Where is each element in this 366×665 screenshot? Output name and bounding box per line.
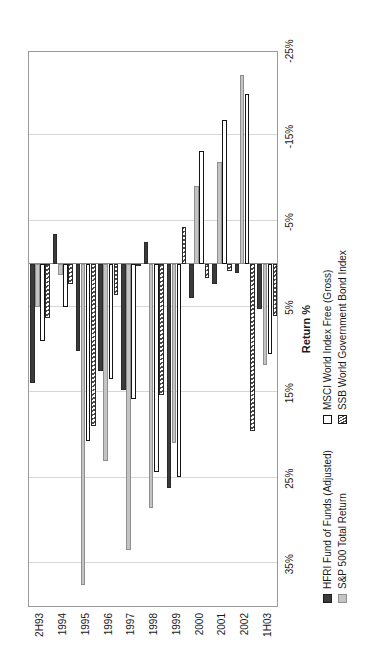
legend-swatch-spx-icon (338, 594, 347, 603)
bar-ssb-1997 (136, 264, 141, 266)
bar-group (98, 52, 118, 606)
legend-label: SSB World Government Bond Index (337, 250, 348, 410)
return-comparison-bar-chart: 35%25%15%5%-5%-15%-25% 2H931994199519961… (0, 0, 366, 665)
category-label-1999: 1999 (170, 613, 181, 663)
bar-spx-1994 (58, 264, 63, 275)
chart-legend: HFRI Fund of Funds (Adjusted)S&P 500 Tot… (322, 250, 348, 603)
bar-spx-2000 (194, 186, 199, 264)
category-label-1997: 1997 (125, 613, 136, 663)
bar-hfri-2000 (189, 264, 194, 298)
category-label-1995: 1995 (79, 613, 90, 663)
bar-ssb-1995 (91, 264, 96, 427)
bar-hfri-2002 (235, 264, 240, 273)
legend-entry-ssb: SSB World Government Bond Index (337, 250, 348, 424)
legend-label: MSCI World Index Free (Gross) (322, 270, 333, 410)
bar-spx-1999 (172, 264, 177, 444)
bar-msci-1995 (86, 264, 91, 441)
bar-ssb-1996 (114, 264, 119, 295)
category-label-1H03: 1H03 (261, 613, 272, 663)
category-label-2002: 2002 (238, 613, 249, 663)
bar-group (212, 52, 232, 606)
category-label-1996: 1996 (102, 613, 113, 663)
bar-spx-2001 (217, 162, 222, 264)
legend-label: HFRI Fund of Funds (Adjusted) (322, 450, 333, 589)
bar-msci-1996 (109, 264, 114, 379)
bar-group (167, 52, 187, 606)
bar-ssb-2001 (227, 264, 232, 271)
bar-spx-1995 (81, 264, 86, 586)
bar-msci-2H93 (40, 264, 45, 341)
bar-msci-1999 (177, 264, 182, 477)
bar-group (257, 52, 277, 606)
value-axis-title: Return % (300, 51, 312, 607)
legend-entry-hfri: HFRI Fund of Funds (Adjusted) (322, 450, 333, 603)
bar-spx-1H03 (263, 264, 268, 365)
bar-hfri-1998 (144, 242, 149, 264)
bar-group (121, 52, 141, 606)
category-label-1998: 1998 (148, 613, 159, 663)
bar-group (144, 52, 164, 606)
legend-column: HFRI Fund of Funds (Adjusted)S&P 500 Tot… (322, 450, 348, 603)
bar-hfri-1999 (167, 264, 172, 488)
bar-msci-1H03 (268, 264, 273, 354)
legend-label: S&P 500 Total Return (337, 493, 348, 589)
legend-swatch-msci-icon (323, 415, 332, 424)
bar-hfri-1H03 (257, 264, 262, 309)
bar-ssb-2002 (250, 264, 255, 431)
legend-entry-msci: MSCI World Index Free (Gross) (322, 250, 333, 424)
bar-hfri-1997 (121, 264, 126, 391)
bar-msci-1997 (131, 264, 136, 399)
bar-hfri-2001 (212, 264, 217, 285)
tick-label: -5% (284, 213, 295, 231)
category-label-2H93: 2H93 (34, 613, 45, 663)
bar-hfri-1995 (76, 264, 81, 351)
bar-msci-2002 (245, 94, 250, 264)
legend-entry-spx: S&P 500 Total Return (337, 450, 348, 603)
bar-ssb-1998 (159, 264, 164, 395)
bar-hfri-1994 (53, 234, 58, 264)
bar-msci-1994 (63, 264, 68, 308)
bar-spx-1998 (149, 264, 154, 509)
legend-column: MSCI World Index Free (Gross)SSB World G… (322, 250, 348, 424)
bar-ssb-1H03 (273, 264, 278, 316)
bar-ssb-2000 (205, 264, 210, 278)
bar-group (76, 52, 96, 606)
bar-spx-1996 (103, 264, 108, 461)
bar-spx-2002 (240, 75, 245, 264)
bar-spx-1997 (126, 264, 131, 550)
category-label-1994: 1994 (57, 613, 68, 663)
bar-group (30, 52, 50, 606)
tick-label: 15% (284, 383, 295, 403)
bar-msci-2001 (222, 120, 227, 264)
category-label-2000: 2000 (193, 613, 204, 663)
bar-spx-2H93 (35, 264, 40, 307)
tick-label: -25% (284, 39, 295, 62)
tick-label: -15% (284, 125, 295, 148)
tick-label: 5% (284, 300, 295, 314)
bar-hfri-1996 (98, 264, 103, 371)
bar-group (235, 52, 255, 606)
bar-hfri-2H93 (30, 264, 35, 383)
tick-label: 25% (284, 469, 295, 489)
legend-swatch-ssb-icon (338, 415, 347, 424)
tick-label: 35% (284, 554, 295, 574)
bar-msci-2000 (199, 151, 204, 264)
plot-area (28, 51, 278, 607)
bar-group (53, 52, 73, 606)
bar-ssb-1994 (68, 264, 73, 284)
bar-ssb-2H93 (45, 264, 50, 318)
category-label-2001: 2001 (216, 613, 227, 663)
bar-ssb-1999 (182, 227, 187, 264)
bar-msci-1998 (154, 264, 159, 472)
legend-swatch-hfri-icon (323, 594, 332, 603)
rotated-figure-wrapper: 35%25%15%5%-5%-15%-25% 2H931994199519961… (0, 0, 366, 665)
bar-group (189, 52, 209, 606)
